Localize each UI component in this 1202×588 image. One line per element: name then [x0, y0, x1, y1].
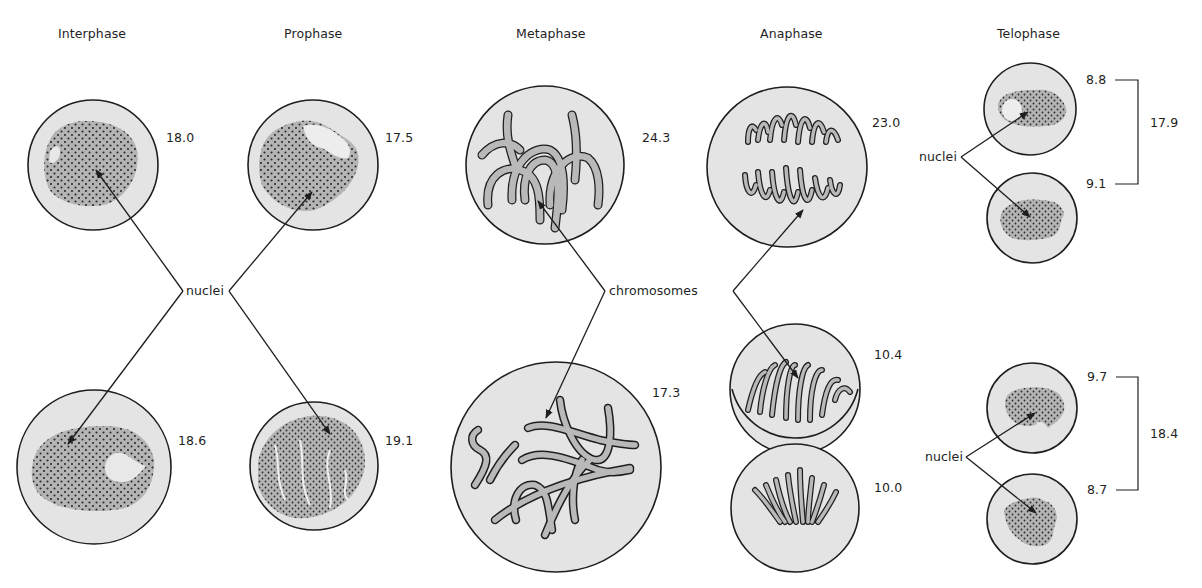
cell-division-diagram: Interphase Prophase Metaphase Anaphase T…	[0, 0, 1202, 588]
callout-telophase-nuclei-1: nuclei	[919, 151, 957, 164]
stage-title-telophase: Telophase	[997, 28, 1060, 41]
value-telophase-2-total: 18.4	[1150, 428, 1178, 441]
value-anaphase-bottom-lower: 10.0	[874, 482, 902, 495]
stage-title-metaphase: Metaphase	[516, 28, 586, 41]
metaphase-cell-bottom	[451, 362, 661, 572]
value-telophase-2a: 9.7	[1087, 371, 1107, 384]
telophase-bracket-2	[1116, 377, 1138, 490]
value-telophase-1b: 9.1	[1086, 178, 1106, 191]
prophase-cell-top	[248, 100, 378, 230]
callout-nuclei: nuclei	[186, 285, 224, 298]
stage-title-interphase: Interphase	[58, 28, 126, 41]
value-metaphase-top: 24.3	[642, 132, 670, 145]
anaphase-cell-top	[707, 87, 867, 247]
telophase-bracket-1	[1115, 80, 1138, 184]
value-anaphase-bottom-upper: 10.4	[874, 349, 902, 362]
telophase-cell-1a	[984, 63, 1076, 155]
stage-title-prophase: Prophase	[284, 28, 342, 41]
stage-title-anaphase: Anaphase	[760, 28, 823, 41]
interphase-cell-top	[28, 100, 158, 230]
diagram-graphics	[0, 0, 1202, 588]
callout-telophase-nuclei-2: nuclei	[925, 451, 963, 464]
value-telophase-1a: 8.8	[1086, 74, 1106, 87]
value-telophase-2b: 8.7	[1087, 484, 1107, 497]
value-prophase-top: 17.5	[385, 132, 413, 145]
telophase-cell-2a	[987, 363, 1077, 453]
value-prophase-bottom: 19.1	[385, 435, 413, 448]
telophase-cell-1b	[987, 173, 1077, 263]
callout-chromosomes: chromosomes	[609, 285, 698, 298]
value-metaphase-bottom: 17.3	[652, 387, 680, 400]
telophase-cell-2b	[987, 474, 1077, 564]
metaphase-cell-top	[466, 86, 624, 244]
value-interphase-bottom: 18.6	[178, 435, 206, 448]
prophase-cell-bottom	[250, 402, 378, 530]
interphase-cell-bottom	[17, 390, 171, 544]
value-interphase-top: 18.0	[166, 132, 194, 145]
value-anaphase-top: 23.0	[872, 117, 900, 130]
value-telophase-1-total: 17.9	[1150, 117, 1178, 130]
